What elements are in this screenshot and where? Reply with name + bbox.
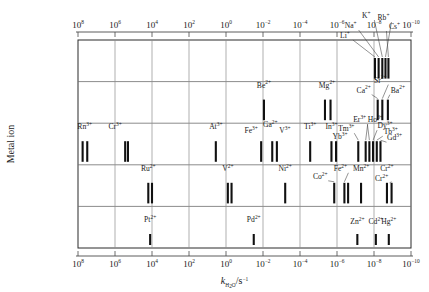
top-axis-tick: 10−6 <box>330 19 345 30</box>
label-leader-line <box>367 124 369 140</box>
bottom-axis-tick: 10−10 <box>402 258 420 269</box>
x-axis-title: kH2O/s−1 <box>221 275 249 289</box>
label-leader-line <box>372 95 378 99</box>
chart-canvas: 10810810610610410410210210010010−210−210… <box>0 0 429 292</box>
top-axis-tick: 108 <box>72 19 84 30</box>
axis-tick-label: 10−4 <box>293 258 308 269</box>
label-leader-line <box>390 182 392 183</box>
bottom-axis-tick: 10−8 <box>367 258 382 269</box>
bottom-axis-tick: 106 <box>109 258 121 269</box>
bottom-axis-tick: 100 <box>220 258 232 269</box>
label-leader-line <box>374 20 382 57</box>
label-leader-line <box>386 31 388 57</box>
axis-tick-label: 106 <box>109 19 121 30</box>
bottom-axis-tick: 10−2 <box>256 258 271 269</box>
ion-label: Li+ <box>340 30 350 40</box>
ion-label: K+ <box>362 10 371 20</box>
axis-tick-label: 108 <box>72 19 84 30</box>
label-leader-line <box>344 173 348 182</box>
ion-label: Ba2+ <box>391 84 405 94</box>
ion-label: Ni2+ <box>279 163 292 173</box>
ion-label: At3+ <box>209 121 222 131</box>
ion-label: Fe2+ <box>334 163 347 173</box>
ion-label: In3+ <box>325 121 337 131</box>
label-leader-line <box>366 124 368 140</box>
label-leader-line <box>388 95 390 99</box>
axis-tick-label: 10−10 <box>402 258 420 269</box>
ion-label: Zn2+ <box>350 216 364 226</box>
ion-label: Sr2+ <box>374 74 387 84</box>
ion-label: Ga2+ <box>263 119 278 129</box>
label-leader-line <box>353 40 375 57</box>
axis-tick-label: 102 <box>183 19 195 30</box>
top-axis-tick: 104 <box>146 19 158 30</box>
top-axis-tick: 106 <box>109 19 121 30</box>
axis-tick-label: 10−2 <box>256 19 271 30</box>
y-axis-title: Metal ion <box>5 125 16 164</box>
axis-tick-label: 100 <box>220 258 232 269</box>
axis-tick-label: 104 <box>146 19 158 30</box>
bottom-axis-tick: 108 <box>72 258 84 269</box>
ion-label: Be2+ <box>257 79 271 89</box>
top-axis-tick: 10−4 <box>293 19 308 30</box>
ion-label: Mn2+ <box>353 163 369 173</box>
ion-label: Tm3+ <box>338 123 354 133</box>
axis-tick-label: 102 <box>183 258 195 269</box>
axis-tick-label: 106 <box>109 258 121 269</box>
ion-label: Cr3+ <box>109 121 122 131</box>
label-leader-line <box>328 181 334 182</box>
ion-label: Ca2+ <box>357 84 371 94</box>
axis-tick-label: 10−10 <box>402 19 420 30</box>
top-axis-tick: 102 <box>183 19 195 30</box>
bottom-axis-tick: 104 <box>146 258 158 269</box>
label-leader-line <box>354 133 358 140</box>
axis-tick-label: 104 <box>146 258 158 269</box>
axis-tick-label: 10−6 <box>330 19 345 30</box>
ion-label: Hg2+ <box>381 216 396 226</box>
ion-label: V2+ <box>222 163 233 173</box>
bottom-axis-tick: 102 <box>183 258 195 269</box>
label-leader-line <box>359 30 379 57</box>
bottom-axis-tick: 10−4 <box>293 258 308 269</box>
ion-label: Co2+ <box>313 171 328 181</box>
label-leader-line <box>382 85 388 99</box>
axis-tick-label: 108 <box>72 258 84 269</box>
ion-label: Ru2+ <box>141 163 156 173</box>
axis-tick-label: 10−2 <box>256 258 271 269</box>
ion-label: Gd3+ <box>387 132 402 142</box>
ion-label: Er3+ <box>353 114 366 124</box>
ion-label: Ti3+ <box>304 121 316 131</box>
water-exchange-rate-chart: 10810810610610410410210210010010−210−210… <box>0 0 429 292</box>
axis-tick-label: 10−4 <box>293 19 308 30</box>
top-axis-tick: 100 <box>220 19 232 30</box>
top-axis-tick: 10−10 <box>402 19 420 30</box>
axis-tick-label: 10−6 <box>330 258 345 269</box>
ion-label: Cr2+ <box>380 163 393 173</box>
ion-label: Cr2+ <box>375 173 388 183</box>
ion-label: Rn3+ <box>77 121 92 131</box>
ion-label: V3+ <box>279 125 290 135</box>
ion-label: Na+ <box>345 20 357 30</box>
ion-label: Mg2+ <box>319 79 335 89</box>
axis-tick-label: 10−8 <box>367 258 382 269</box>
axis-tick-label: 100 <box>220 19 232 30</box>
label-leader-line <box>377 136 383 140</box>
ion-label: Pd2+ <box>247 214 261 224</box>
top-axis-tick: 10−2 <box>256 19 271 30</box>
ion-label: Rb+ <box>378 12 390 22</box>
bottom-axis-tick: 10−6 <box>330 258 345 269</box>
ion-label: Fe3+ <box>244 125 257 135</box>
ion-label: Cs+ <box>389 21 400 31</box>
ion-label: Pt2+ <box>144 214 156 224</box>
